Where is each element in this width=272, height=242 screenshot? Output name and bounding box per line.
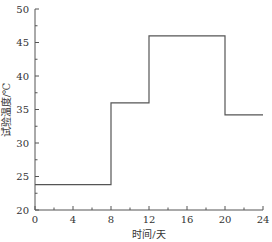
x-tick-label: 24 [257, 214, 270, 225]
y-tick-label: 25 [16, 171, 29, 182]
x-tick-label: 20 [219, 214, 232, 225]
temperature-series [35, 36, 263, 185]
y-axis-label: 试验温度/℃ [0, 83, 12, 138]
y-tick-label: 30 [16, 138, 29, 149]
x-tick-label: 16 [181, 214, 194, 225]
step-chart: 2025303540455004812162024 时间/天 试验温度/℃ [0, 0, 272, 242]
axes: 2025303540455004812162024 [16, 4, 269, 226]
x-tick-label: 8 [108, 214, 114, 225]
x-axis-label: 时间/天 [132, 228, 165, 240]
x-tick-label: 4 [70, 214, 76, 225]
y-tick-label: 45 [16, 37, 29, 48]
y-tick-label: 20 [16, 205, 29, 216]
y-tick-label: 35 [16, 104, 29, 115]
step-line [35, 36, 263, 185]
x-tick-label: 12 [143, 214, 156, 225]
y-tick-label: 40 [16, 71, 29, 82]
x-tick-label: 0 [32, 214, 38, 225]
y-tick-label: 50 [16, 4, 29, 15]
